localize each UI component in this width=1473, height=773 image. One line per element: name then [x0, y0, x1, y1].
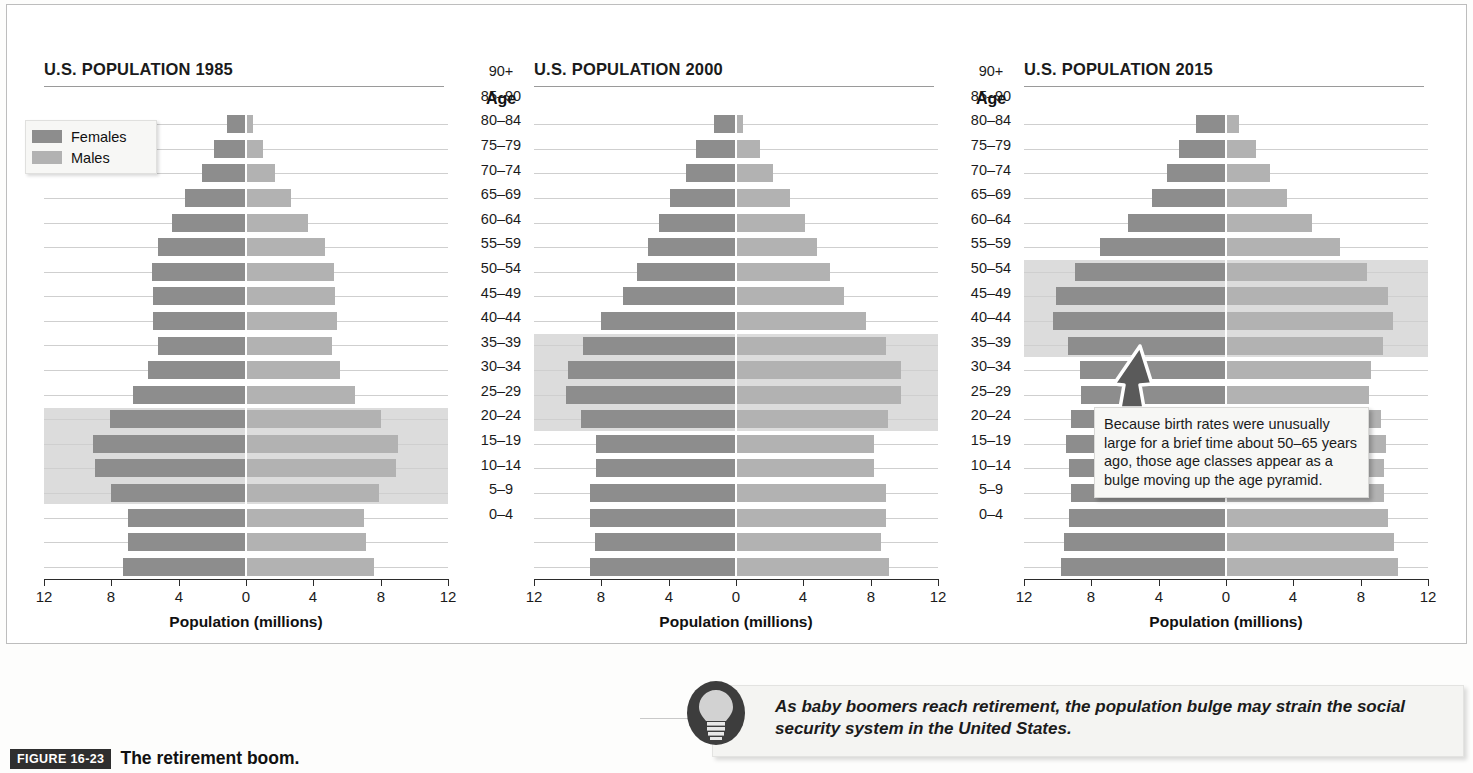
bar-female: [714, 115, 736, 133]
legend-label-males: Males: [71, 150, 110, 166]
bar-female: [1061, 558, 1226, 576]
pyramid-plot-2000: [534, 112, 938, 579]
bar-female: [1056, 287, 1226, 305]
bar-male: [736, 386, 901, 404]
panel-title-1985: U.S. POPULATION 1985: [44, 60, 233, 79]
bar-male: [1226, 337, 1383, 355]
panel-title-prefix: U.S. POPULATION: [534, 60, 681, 78]
bar-female: [1064, 533, 1226, 551]
legend-item-males: Males: [32, 147, 150, 168]
x-axis-tick: [1226, 579, 1227, 586]
age-label: 45–49: [952, 285, 1030, 301]
panel-title-year: 2000: [685, 60, 723, 78]
bar-male: [246, 361, 340, 379]
x-axis-1985: 128404812: [44, 579, 448, 580]
bar-female: [128, 533, 246, 551]
bar-male: [246, 189, 291, 207]
bar-female: [158, 337, 246, 355]
bar-male: [1226, 164, 1270, 182]
bar-male: [1226, 386, 1369, 404]
figure-caption-tag: FIGURE 16-23: [10, 749, 111, 769]
bar-male: [736, 361, 901, 379]
bar-male: [736, 312, 866, 330]
bar-female: [123, 558, 246, 576]
bar-male: [246, 312, 337, 330]
bar-male: [736, 533, 881, 551]
bar-female: [601, 312, 736, 330]
x-axis-tick-label: 12: [1420, 588, 1437, 605]
bar-female: [95, 459, 247, 477]
bar-female: [590, 484, 736, 502]
bar-female: [1196, 115, 1226, 133]
bar-male: [246, 115, 253, 133]
x-axis-tick-label: 8: [597, 588, 605, 605]
x-axis-tick-label: 8: [107, 588, 115, 605]
age-label: 30–34: [952, 358, 1030, 374]
x-axis-tick: [1361, 579, 1362, 586]
age-label: 10–14: [952, 457, 1030, 473]
bar-male: [736, 337, 886, 355]
age-label: 15–19: [462, 432, 540, 448]
bar-female: [93, 435, 246, 453]
bar-female: [637, 263, 736, 281]
bar-male: [736, 558, 889, 576]
age-label: 85–90: [462, 88, 540, 104]
bar-male: [736, 140, 760, 158]
x-axis-tick: [601, 579, 602, 586]
legend-item-females: Females: [32, 126, 150, 147]
bar-female: [595, 533, 736, 551]
bar-male: [1226, 533, 1394, 551]
bar-female: [202, 164, 246, 182]
bar-female: [128, 509, 246, 527]
bar-male: [736, 115, 743, 133]
bar-female: [1075, 263, 1227, 281]
zero-axis-line: [1225, 112, 1227, 579]
bar-female: [648, 238, 736, 256]
bar-female: [158, 238, 246, 256]
bar-female: [214, 140, 246, 158]
age-label: 80–84: [462, 112, 540, 128]
age-label: 20–24: [462, 407, 540, 423]
bar-male: [736, 189, 790, 207]
x-axis-tick-label: 4: [175, 588, 183, 605]
age-label: 25–29: [462, 383, 540, 399]
x-axis-tick: [1293, 579, 1294, 586]
panel-title-2015: U.S. POPULATION 2015: [1024, 60, 1213, 79]
x-axis-tick: [44, 579, 45, 586]
bar-male: [1226, 312, 1393, 330]
bar-male: [246, 386, 355, 404]
x-axis-tick: [871, 579, 872, 586]
x-axis-tick: [669, 579, 670, 586]
age-label: 80–84: [952, 112, 1030, 128]
bar-female: [133, 386, 246, 404]
age-label: 5–9: [952, 481, 1030, 497]
bar-male: [246, 558, 374, 576]
x-axis-tick: [448, 579, 449, 586]
panel-title-prefix: U.S. POPULATION: [44, 60, 191, 78]
age-label: 60–64: [952, 211, 1030, 227]
x-axis-tick: [803, 579, 804, 586]
x-axis-tick-label: 4: [665, 588, 673, 605]
bar-female: [1179, 140, 1226, 158]
bar-female: [1100, 238, 1226, 256]
bar-female: [1069, 509, 1226, 527]
bar-male: [246, 287, 335, 305]
bar-male: [246, 484, 379, 502]
panel-title-2000: U.S. POPULATION 2000: [534, 60, 723, 79]
bar-female: [111, 484, 246, 502]
legend-swatch-females: [32, 130, 62, 143]
bar-female: [1167, 164, 1226, 182]
bar-female: [583, 337, 736, 355]
x-axis-tick: [1428, 579, 1429, 586]
age-label: 40–44: [952, 309, 1030, 325]
bulb-note-text: As baby boomers reach retirement, the po…: [775, 697, 1405, 738]
x-axis-tick-label: 12: [36, 588, 53, 605]
bar-male: [1226, 115, 1239, 133]
age-label: 0–4: [462, 506, 540, 522]
x-axis-2015: 128404812: [1024, 579, 1428, 580]
x-axis-tick-label: 8: [377, 588, 385, 605]
bar-male: [736, 164, 773, 182]
bar-male: [1226, 558, 1398, 576]
bar-male: [736, 484, 886, 502]
bar-female: [172, 214, 246, 232]
